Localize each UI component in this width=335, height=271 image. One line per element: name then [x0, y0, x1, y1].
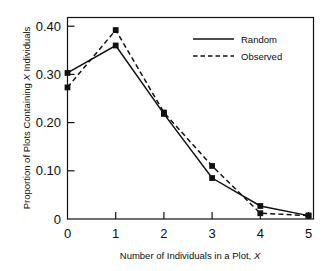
y-tick-label-0: 0	[54, 212, 61, 227]
data-point	[65, 85, 71, 91]
chart-figure: 0.40 0.30 0.20 0.10 0 0 1 2 3 4 5 Random…	[0, 0, 335, 271]
data-point	[113, 43, 119, 49]
y-tick-label-0.20: 0.20	[36, 115, 61, 130]
y-tick-label-0.30: 0.30	[36, 67, 61, 82]
x-tick-label-2: 2	[160, 226, 167, 241]
legend-label-observed: Observed	[241, 51, 282, 62]
x-axis-title: Number of Individuals in a Plot, X	[120, 250, 261, 261]
data-point	[65, 70, 71, 76]
y-axis-title: Proportion of Plots Containing X Individ…	[21, 26, 32, 209]
data-point	[257, 210, 263, 216]
x-tick-label-1: 1	[112, 226, 119, 241]
data-point	[209, 175, 215, 181]
data-point	[257, 203, 263, 209]
x-tick-label-0: 0	[64, 226, 71, 241]
data-point	[306, 213, 312, 219]
y-tick-label-0.40: 0.40	[36, 19, 61, 34]
legend-label-random: Random	[241, 34, 277, 45]
data-point	[161, 110, 167, 116]
data-point	[113, 27, 119, 33]
y-tick-label-0.10: 0.10	[36, 163, 61, 178]
x-tick-label-5: 5	[305, 226, 312, 241]
chart-canvas: 0.40 0.30 0.20 0.10 0 0 1 2 3 4 5 Random…	[0, 0, 335, 271]
x-tick-label-4: 4	[257, 226, 264, 241]
data-point	[209, 163, 215, 169]
x-tick-label-3: 3	[208, 226, 215, 241]
